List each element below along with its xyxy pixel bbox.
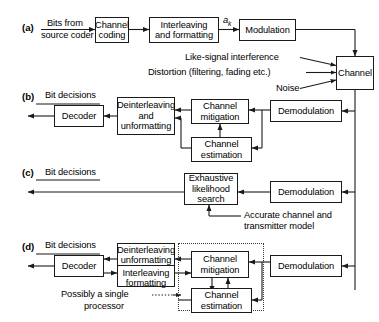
block-chan-est-b-line1: Channel [205,139,239,149]
block-channel-label: Channel [338,68,372,78]
block-demodulation-c-label: Demodulation [278,187,334,197]
block-chan-mit-b-line2: mitigation [201,112,240,122]
block-interleaving-formatting: Interleaving and formatting [149,17,219,43]
block-decoder-d-label: Decoder [62,261,96,271]
input-label-line1: Bits from [47,18,83,28]
input-label-line2: source coder [41,30,94,40]
annotation-accurate-model-line1: Accurate channel and [244,210,332,220]
panel-tag-d: (d) [22,241,34,252]
block-channel-mitigation-d: Channel mitigation [191,251,249,278]
output-label-d: Bit decisions [45,240,96,250]
block-decoder-d: Decoder [54,255,104,277]
deinterleaving-divider [117,265,175,266]
block-modulation-a: Modulation [239,19,296,41]
block-chan-mit-d-line1: Channel [203,254,237,264]
block-exhaustive-likelihood-search: Exhaustive likelihood search [184,173,238,205]
annotation-single-processor-line2: processor [84,301,124,311]
label-distortion: Distortion (filtering, fading etc.) [148,67,271,77]
block-channel-coding: Channel coding [95,17,129,43]
block-channel-mitigation-b: Channel mitigation [191,99,249,124]
block-chan-est-d-line1: Channel [205,290,239,300]
panel-tag-c: (c) [22,167,34,178]
annotation-single-processor-line1: Possibly a single [61,289,129,299]
block-chan-est-d-line2: estimation [201,301,242,311]
block-interleaving-line2: and formatting [155,30,213,40]
block-channel-coding-line1: Channel [95,20,129,30]
block-channel-coding-line2: coding [99,30,126,40]
block-chan-mit-b-line1: Channel [203,101,237,111]
block-demodulation-b-label: Demodulation [278,106,334,116]
block-deinterleaving-unformatting-b: Deinterleaving and unformatting [117,97,175,135]
label-like-signal-interference: Like-signal interference [185,52,279,62]
block-deint-b-line3: unformatting [121,121,171,131]
block-deint-b-line1: Deinterleaving [117,100,175,110]
block-exhaustive-line1: Exhaustive [189,173,233,183]
panel-tag-a: (a) [22,22,34,33]
block-channel: Channel [336,56,374,90]
label-noise: Noise [276,83,299,93]
block-int-d-line2: formatting [126,278,166,288]
block-chan-est-b-line2: estimation [201,150,242,160]
output-label-c: Bit decisions [45,167,96,177]
block-chan-mit-d-line2: mitigation [201,265,240,275]
output-label-b: Bit decisions [45,90,96,100]
block-demodulation-d: Demodulation [270,255,342,277]
block-channel-estimation-d: Channel estimation [191,288,252,313]
block-exhaustive-line3: search [197,194,224,204]
annotation-accurate-model-line2: transmitter model [244,221,314,231]
panel-tag-b: (b) [22,91,34,102]
block-channel-estimation-b: Channel estimation [191,137,252,162]
figure-container: (a) (b) (c) (d) Bits from source coder C… [0,0,379,322]
block-interleaving-line1: Interleaving [161,20,208,30]
block-demodulation-b: Demodulation [270,100,342,122]
block-decoder-b-label: Decoder [62,111,96,121]
block-int-d-line1: Interleaving [123,268,170,278]
block-demodulation-d-label: Demodulation [278,261,334,271]
symbol-ak: ak [223,15,231,29]
block-demodulation-c: Demodulation [270,181,342,203]
block-deint-d-line1: Deinterleaving [117,245,175,255]
block-modulation-a-label: Modulation [245,25,289,35]
block-decoder-b: Decoder [54,105,104,127]
block-exhaustive-line2: likelihood [192,184,230,194]
block-deint-b-line2: and [138,111,153,121]
